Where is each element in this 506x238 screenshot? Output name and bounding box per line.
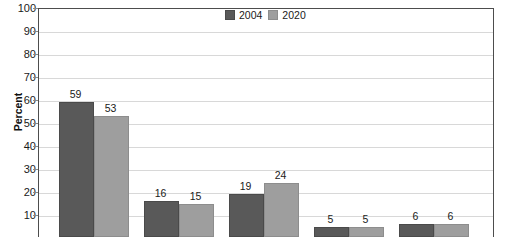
bar-2004-group-3 [314, 227, 349, 238]
legend-label: 2004 [239, 10, 262, 21]
bar-2020-group-0 [94, 116, 129, 237]
bar-value-label: 59 [58, 89, 93, 100]
bar-2004-group-2 [229, 194, 264, 237]
plot-area [38, 8, 494, 237]
y-tick-mark [33, 215, 38, 216]
gridline [39, 32, 493, 33]
bar-2020-group-3 [349, 227, 384, 238]
bar-value-label: 6 [433, 211, 468, 222]
y-tick-mark [33, 31, 38, 32]
legend-item-2004[interactable]: 2004 [225, 10, 262, 21]
y-tick-mark [33, 192, 38, 193]
gridline [39, 55, 493, 56]
bar-value-label: 24 [263, 170, 298, 181]
bar-2004-group-4 [399, 224, 434, 237]
bar-2004-group-0 [59, 102, 94, 237]
bar-value-label: 16 [143, 188, 178, 199]
chart-legend: 20042020 [225, 8, 306, 22]
bar-value-label: 19 [228, 181, 263, 192]
legend-item-2020[interactable]: 2020 [268, 10, 305, 21]
y-tick-mark [33, 169, 38, 170]
y-tick-mark [33, 77, 38, 78]
bar-value-label: 15 [178, 191, 213, 202]
bar-value-label: 6 [398, 211, 433, 222]
bar-value-label: 5 [348, 214, 383, 225]
y-tick-mark [33, 8, 38, 9]
bar-chart: Percent 100908070605040302010 20042020 5… [0, 0, 506, 237]
bar-2020-group-4 [434, 224, 469, 237]
y-axis-tick-labels: 100908070605040302010 [6, 0, 36, 237]
gridline [39, 78, 493, 79]
bar-value-label: 53 [93, 103, 128, 114]
bar-2020-group-1 [179, 204, 214, 238]
y-tick-mark [33, 123, 38, 124]
legend-swatch-2020 [268, 10, 278, 20]
bar-2020-group-2 [264, 183, 299, 237]
y-tick-mark [33, 100, 38, 101]
legend-label: 2020 [282, 10, 305, 21]
bar-2004-group-1 [144, 201, 179, 237]
legend-swatch-2004 [225, 10, 235, 20]
bar-value-label: 5 [313, 214, 348, 225]
y-tick-mark [33, 146, 38, 147]
y-tick-mark [33, 54, 38, 55]
